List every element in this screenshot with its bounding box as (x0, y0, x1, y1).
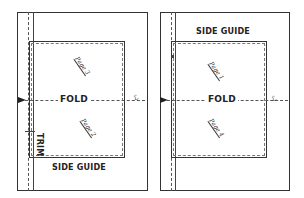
right-side-guide-label: SIDE GUIDE (196, 25, 250, 36)
left-trim-label: TRIM (35, 133, 44, 156)
left-trim-tick-bottom (33, 157, 39, 158)
right-side-guide-mark (172, 55, 174, 58)
left-side-guide-label: SIDE GUIDE (52, 161, 106, 172)
left-fold-label: FOLD (58, 94, 90, 104)
right-fold-arrow-icon (160, 97, 168, 103)
left-trim-tick-top (25, 131, 35, 132)
left-fold-arrow-icon (18, 97, 26, 103)
right-fold-label: FOLD (206, 94, 238, 104)
